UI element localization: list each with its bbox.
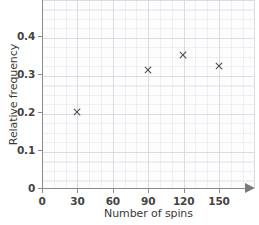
x-tick bbox=[184, 189, 185, 193]
y-tick bbox=[38, 74, 42, 75]
x-axis-arrow-icon bbox=[245, 183, 255, 193]
x-tick-label: 60 bbox=[106, 195, 120, 207]
y-axis-line bbox=[42, 0, 43, 189]
x-tick-label: 150 bbox=[208, 195, 229, 207]
x-tick-label: 120 bbox=[173, 195, 194, 207]
x-axis-title: Number of spins bbox=[42, 207, 255, 220]
x-tick bbox=[77, 189, 78, 193]
x-tick-label: 30 bbox=[70, 195, 84, 207]
x-tick bbox=[148, 189, 149, 193]
plot-area bbox=[42, 0, 255, 188]
x-axis-line bbox=[42, 188, 247, 189]
y-tick-label: 0.4 bbox=[17, 30, 35, 42]
y-tick-label: 0 bbox=[28, 182, 35, 194]
x-tick-label: 0 bbox=[38, 195, 45, 207]
x-tick bbox=[113, 189, 114, 193]
x-tick bbox=[42, 189, 43, 193]
y-tick-label: 0.1 bbox=[17, 144, 35, 156]
y-tick-label: 0.2 bbox=[17, 106, 35, 118]
data-point bbox=[215, 62, 224, 71]
y-tick bbox=[38, 188, 42, 189]
x-tick bbox=[219, 189, 220, 193]
data-point bbox=[73, 107, 82, 116]
data-point bbox=[179, 50, 188, 59]
y-axis-title: Relative frequency bbox=[7, 20, 20, 170]
y-tick bbox=[38, 36, 42, 37]
data-point bbox=[144, 66, 153, 75]
y-tick bbox=[38, 150, 42, 151]
x-tick-label: 90 bbox=[141, 195, 155, 207]
scatter-chart: 0 30 60 90 120 150 0 0.1 0.2 0.3 0.4 Num… bbox=[0, 0, 259, 225]
y-tick bbox=[38, 112, 42, 113]
y-tick-label: 0.3 bbox=[17, 68, 35, 80]
